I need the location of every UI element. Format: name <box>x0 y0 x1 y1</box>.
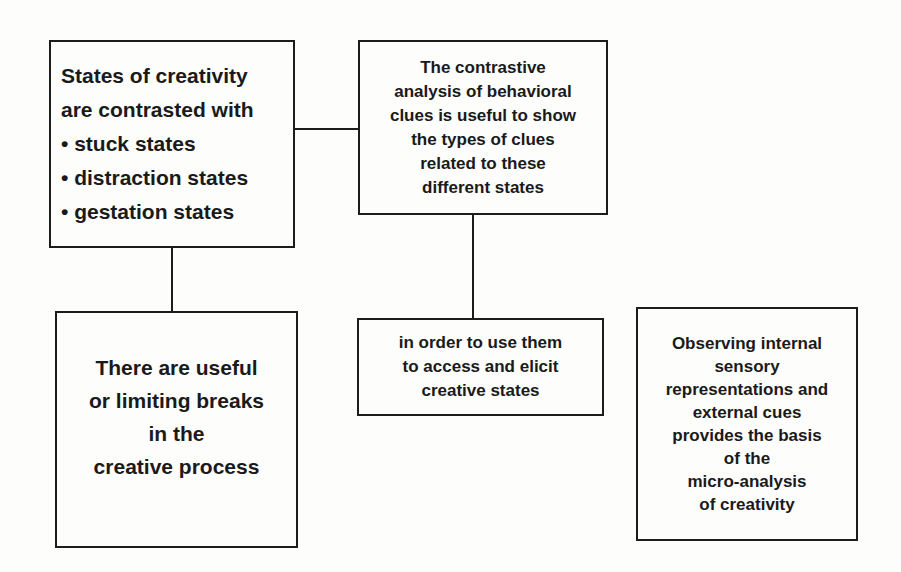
box-text-line: in order to use them <box>399 331 562 355</box>
box-text-line: different states <box>422 176 544 200</box>
box-text-line: are contrasted with <box>61 93 254 127</box>
bullet-distraction-states: distraction states <box>61 161 248 195</box>
box-text-line: creative states <box>421 379 539 403</box>
bullet-gestation-states: gestation states <box>61 195 234 229</box>
box-text-line: analysis of behavioral <box>394 80 572 104</box>
connector-box1-box2 <box>295 128 358 130</box>
box-text-line: or limiting breaks <box>89 384 264 417</box>
box-text-line: of the <box>724 447 770 470</box>
connector-box2-box4 <box>472 215 474 318</box>
box-text-line: There are useful <box>95 351 257 384</box>
box-text-line: in the <box>149 417 205 450</box>
box-text-line: external cues <box>693 401 802 424</box>
connector-box1-box3 <box>171 248 173 311</box>
creativity-states-box: States of creativity are contrasted with… <box>49 40 295 248</box>
box-text-line: Observing internal <box>672 332 822 355</box>
box-text-line: of creativity <box>699 493 794 516</box>
creative-breaks-box: There are useful or limiting breaks in t… <box>55 311 298 548</box>
box-text-line: creative process <box>94 450 260 483</box>
micro-analysis-box: Observing internal sensory representatio… <box>636 307 858 541</box>
box-text-line: to access and elicit <box>403 355 559 379</box>
box-text-line: related to these <box>420 152 546 176</box>
box-text-line: the types of clues <box>411 128 555 152</box>
access-elicit-box: in order to use them to access and elici… <box>357 318 604 416</box>
box-text-line: micro-analysis <box>687 470 806 493</box>
box-text-line: representations and <box>666 378 829 401</box>
contrastive-analysis-box: The contrastive analysis of behavioral c… <box>358 40 608 215</box>
box-text-line: States of creativity <box>61 59 248 93</box>
box-text-line: sensory <box>714 355 779 378</box>
bullet-stuck-states: stuck states <box>61 127 196 161</box>
box-text-line: provides the basis <box>672 424 821 447</box>
box-text-line: clues is useful to show <box>390 104 576 128</box>
box-text-line: The contrastive <box>420 56 546 80</box>
